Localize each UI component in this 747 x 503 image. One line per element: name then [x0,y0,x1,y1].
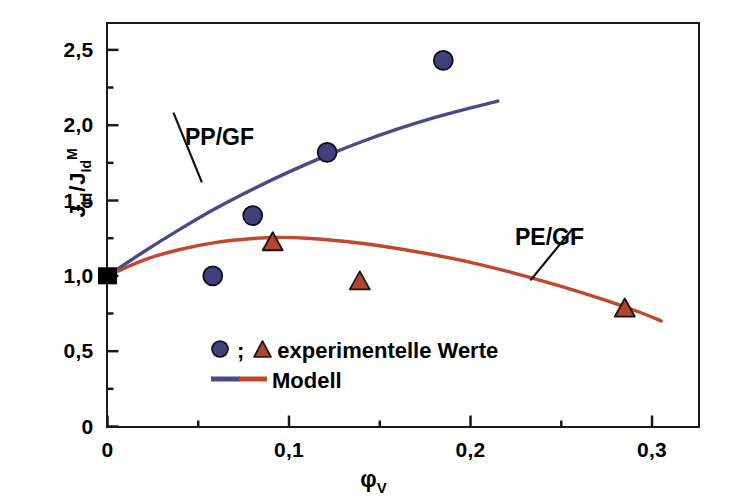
x-tick-label: 0,3 [622,439,682,460]
legend-row-model: Modell [209,366,498,396]
y-axis-title: JId/JIdM [64,98,94,268]
legend-circle-marker-icon [209,338,231,364]
y-axis-title-j2: J [65,172,90,184]
legend-triangle-marker-icon [251,338,274,364]
x-tick-label: 0,1 [259,439,319,460]
x-axis-title-sub: V [377,479,387,496]
y-axis-title-j2-sub: Id [78,160,94,172]
y-axis-title-j2-sup: M [64,148,80,160]
y-axis-title-j1: J [65,205,90,217]
x-tick-label: 0,2 [441,439,501,460]
legend-label-experimental: experimentelle Werte [277,338,498,364]
x-axis-title-phi: φ [360,466,376,492]
y-tick-label: 2,5 [34,39,94,60]
x-tick-label: 0 [78,439,138,460]
x-axis-title: φV [0,466,747,496]
legend-line-swatch-icon [209,368,269,394]
y-tick-label: 0,5 [34,340,94,361]
legend-label-model: Modell [272,368,342,394]
chart-root: 00,51,01,52,02,5 00,10,20,3 JId/JIdM φV … [0,0,747,503]
y-axis-title-slash: / [65,185,90,193]
y-tick-label: 1,0 [34,265,94,286]
annotation-pp-gf: PP/GF [185,124,254,151]
legend-separator: ; [237,338,244,364]
annotation-pe-gf: PE/GF [515,224,584,251]
legend-row-experimental: ; experimentelle Werte [209,336,498,366]
legend: ; experimentelle Werte Modell [209,336,498,396]
y-axis-title-j1-sub: Id [78,193,94,205]
y-tick-label: 0 [34,416,94,437]
